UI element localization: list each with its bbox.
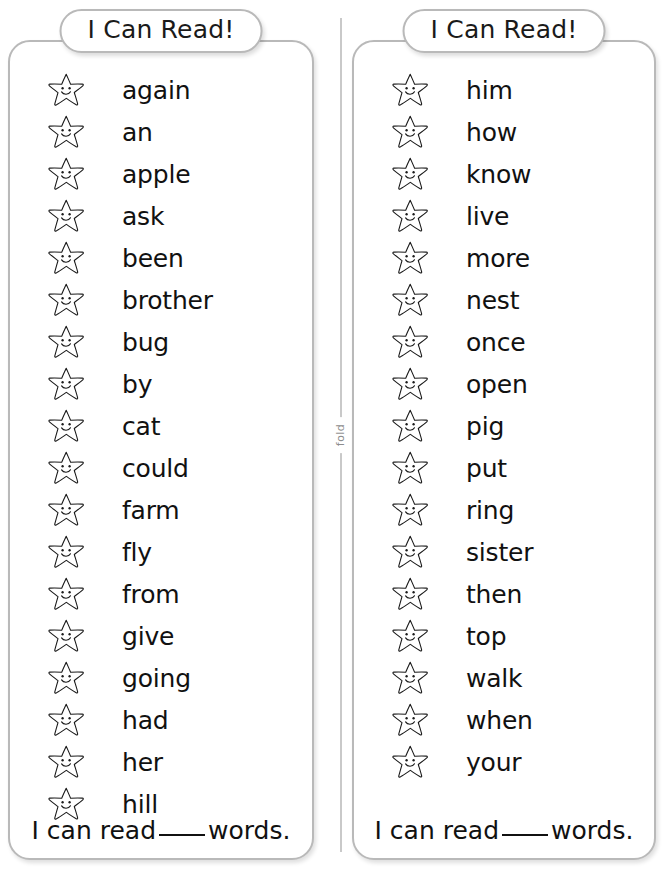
word-label: open: [466, 372, 528, 398]
star-checkbox[interactable]: [10, 324, 122, 362]
star-eye-right: [68, 297, 70, 300]
word-label: sister: [466, 540, 533, 566]
star-checkbox[interactable]: [10, 744, 122, 782]
word-label: fly: [122, 540, 152, 566]
word-row[interactable]: ring: [354, 490, 654, 532]
card-title-badge-left: I Can Read!: [60, 9, 263, 53]
word-row[interactable]: bug: [10, 322, 312, 364]
word-label: pig: [466, 414, 504, 440]
word-row[interactable]: your: [354, 742, 654, 784]
word-label: could: [122, 456, 189, 482]
star-checkbox[interactable]: [354, 702, 466, 740]
star-checkbox[interactable]: [10, 282, 122, 320]
star-eye-left: [61, 633, 63, 636]
star-checkbox[interactable]: [354, 156, 466, 194]
word-row[interactable]: open: [354, 364, 654, 406]
word-row[interactable]: going: [10, 658, 312, 700]
word-row[interactable]: fly: [10, 532, 312, 574]
word-row[interactable]: once: [354, 322, 654, 364]
word-row[interactable]: sister: [354, 532, 654, 574]
star-eye-right: [412, 591, 414, 594]
word-row[interactable]: how: [354, 112, 654, 154]
smiling-star-icon: [390, 324, 430, 362]
star-checkbox[interactable]: [10, 450, 122, 488]
word-row[interactable]: then: [354, 574, 654, 616]
star-checkbox[interactable]: [10, 366, 122, 404]
word-row[interactable]: him: [354, 70, 654, 112]
word-label: hill: [122, 792, 158, 818]
star-eye-left: [405, 633, 407, 636]
word-row[interactable]: again: [10, 70, 312, 112]
star-checkbox[interactable]: [10, 72, 122, 110]
word-row[interactable]: give: [10, 616, 312, 658]
word-row[interactable]: an: [10, 112, 312, 154]
star-checkbox[interactable]: [354, 534, 466, 572]
word-card-right: I Can Read! himhowknowlivemorenestonceop…: [352, 40, 656, 860]
star-checkbox[interactable]: [354, 198, 466, 236]
smiling-star-icon: [390, 492, 430, 530]
star-checkbox[interactable]: [10, 492, 122, 530]
word-row[interactable]: by: [10, 364, 312, 406]
star-checkbox[interactable]: [354, 282, 466, 320]
word-label: when: [466, 708, 533, 734]
star-checkbox[interactable]: [354, 450, 466, 488]
footer-sentence-left: I can readwords.: [32, 816, 291, 845]
star-checkbox[interactable]: [10, 576, 122, 614]
word-row[interactable]: know: [354, 154, 654, 196]
word-row[interactable]: her: [10, 742, 312, 784]
word-row[interactable]: farm: [10, 490, 312, 532]
star-eye-right: [68, 423, 70, 426]
word-row[interactable]: top: [354, 616, 654, 658]
star-checkbox[interactable]: [10, 198, 122, 236]
star-eye-left: [61, 423, 63, 426]
smiling-star-icon: [46, 72, 86, 110]
star-checkbox[interactable]: [354, 240, 466, 278]
star-checkbox[interactable]: [10, 408, 122, 446]
smiling-star-icon: [46, 450, 86, 488]
star-checkbox[interactable]: [354, 660, 466, 698]
smiling-star-icon: [390, 282, 430, 320]
star-eye-right: [68, 591, 70, 594]
star-checkbox[interactable]: [354, 408, 466, 446]
word-row[interactable]: ask: [10, 196, 312, 238]
star-checkbox[interactable]: [10, 114, 122, 152]
word-row[interactable]: from: [10, 574, 312, 616]
star-checkbox[interactable]: [354, 366, 466, 404]
word-row[interactable]: nest: [354, 280, 654, 322]
star-checkbox[interactable]: [10, 618, 122, 656]
star-eye-right: [68, 633, 70, 636]
star-checkbox[interactable]: [354, 114, 466, 152]
footer-blank-left[interactable]: [159, 834, 205, 836]
word-row[interactable]: brother: [10, 280, 312, 322]
star-checkbox[interactable]: [10, 240, 122, 278]
word-row[interactable]: pig: [354, 406, 654, 448]
word-row[interactable]: when: [354, 700, 654, 742]
word-row[interactable]: cat: [10, 406, 312, 448]
word-row[interactable]: put: [354, 448, 654, 490]
word-row[interactable]: more: [354, 238, 654, 280]
word-row[interactable]: live: [354, 196, 654, 238]
word-row[interactable]: had: [10, 700, 312, 742]
star-eye-left: [405, 255, 407, 257]
star-eye-right: [412, 675, 414, 678]
word-row[interactable]: been: [10, 238, 312, 280]
footer-blank-right[interactable]: [502, 834, 548, 836]
star-checkbox[interactable]: [10, 702, 122, 740]
star-eye-right: [68, 801, 70, 804]
word-row[interactable]: apple: [10, 154, 312, 196]
star-checkbox[interactable]: [354, 618, 466, 656]
star-checkbox[interactable]: [10, 660, 122, 698]
star-checkbox[interactable]: [354, 576, 466, 614]
word-row[interactable]: walk: [354, 658, 654, 700]
star-eye-right: [68, 549, 70, 552]
star-checkbox[interactable]: [354, 324, 466, 362]
word-row[interactable]: could: [10, 448, 312, 490]
word-label: top: [466, 624, 506, 650]
star-checkbox[interactable]: [10, 156, 122, 194]
smiling-star-icon: [390, 408, 430, 446]
star-checkbox[interactable]: [354, 492, 466, 530]
star-checkbox[interactable]: [354, 72, 466, 110]
word-label: farm: [122, 498, 180, 524]
star-checkbox[interactable]: [10, 534, 122, 572]
star-checkbox[interactable]: [354, 744, 466, 782]
